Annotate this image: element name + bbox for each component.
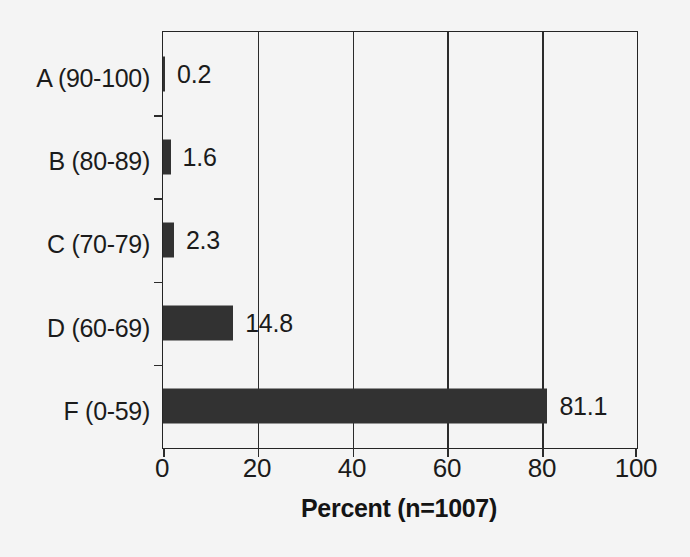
plot-area: 0.2 1.6 2.3 14.8 81.1 (162, 31, 638, 449)
bar-b (163, 139, 171, 174)
x-tick-label-60: 60 (407, 455, 487, 481)
bar-f (163, 389, 547, 424)
category-label-a: A (90-100) (0, 66, 150, 91)
x-tick-label-100: 100 (596, 455, 676, 481)
y-tick-b-c (154, 198, 163, 200)
bar-group-c: 2.3 (163, 198, 637, 281)
x-tick-label-20: 20 (217, 455, 297, 481)
y-tick-a-b (154, 115, 163, 117)
category-label-f: F (0-59) (0, 399, 150, 424)
bar-group-a: 0.2 (163, 32, 637, 115)
category-label-d: D (60-69) (0, 316, 150, 341)
bar-group-b: 1.6 (163, 115, 637, 198)
x-tick-label-40: 40 (312, 455, 392, 481)
y-tick-d-f (154, 365, 163, 367)
bar-value-c: 2.3 (186, 227, 220, 252)
bar-value-f: 81.1 (559, 394, 607, 419)
category-label-b: B (80-89) (0, 149, 150, 174)
bar-c (163, 222, 174, 257)
category-label-c: C (70-79) (0, 232, 150, 257)
x-tick-label-0: 0 (122, 455, 202, 481)
bar-value-b: 1.6 (183, 144, 217, 169)
bar-group-f: 81.1 (163, 365, 637, 448)
bar-chart: A (90-100) B (80-89) C (70-79) D (60-69)… (0, 0, 690, 557)
bar-value-a: 0.2 (177, 61, 211, 86)
bar-d (163, 306, 233, 341)
y-tick-c-d (154, 282, 163, 284)
bar-a (163, 56, 165, 91)
bar-group-d: 14.8 (163, 282, 637, 365)
x-axis-title: Percent (n=1007) (162, 496, 636, 521)
bar-value-d: 14.8 (245, 311, 293, 336)
x-tick-label-80: 80 (502, 455, 582, 481)
